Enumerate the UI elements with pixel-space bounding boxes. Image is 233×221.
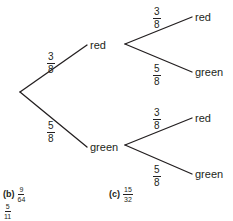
prob-denominator: 8 [154, 76, 160, 87]
prob-numerator: 5 [153, 64, 161, 76]
answer-b: (b) 9 64 [3, 186, 25, 203]
prob-l1-green: 5 8 [47, 121, 55, 144]
prob-numerator: 3 [47, 52, 55, 64]
outcome-label-l1-green: green [90, 141, 118, 153]
prob-l2-red-green: 5 8 [153, 64, 161, 87]
prob-denominator: 8 [154, 120, 160, 131]
prob-l2-green-red: 3 8 [153, 108, 161, 131]
answer-b-fraction: 9 64 [18, 186, 26, 203]
answer-c: (c) 15 32 [109, 186, 133, 203]
prob-numerator: 5 [47, 121, 55, 133]
prob-numerator: 3 [153, 7, 161, 19]
prob-l1-red: 3 8 [47, 52, 55, 75]
prob-l2-red-red: 3 8 [153, 7, 161, 30]
answer-extra: 5 11 [4, 203, 11, 220]
prob-denominator: 8 [154, 19, 160, 30]
answer-b-numerator: 9 [18, 186, 24, 195]
outcome-label-l2-red-red: red [195, 11, 211, 23]
prob-numerator: 5 [153, 165, 161, 177]
answer-extra-fraction: 5 11 [4, 203, 11, 220]
answer-c-denominator: 32 [124, 195, 132, 203]
prob-l2-green-green: 5 8 [153, 165, 161, 188]
answer-c-fraction: 15 32 [123, 186, 133, 203]
answer-extra-denominator: 11 [4, 212, 11, 220]
outcome-label-l2-green-green: green [195, 168, 223, 180]
answer-b-tag: (b) [3, 189, 15, 199]
outcome-label-l2-red-green: green [195, 66, 223, 78]
answer-c-tag: (c) [109, 189, 120, 199]
prob-denominator: 8 [48, 133, 54, 144]
answer-b-denominator: 64 [18, 195, 26, 203]
outcome-label-l2-green-red: red [195, 112, 211, 124]
answer-c-numerator: 15 [123, 186, 133, 195]
answer-extra-numerator: 5 [5, 203, 11, 212]
prob-numerator: 3 [153, 108, 161, 120]
prob-denominator: 8 [154, 177, 160, 188]
outcome-label-l1-red: red [90, 39, 106, 51]
prob-denominator: 8 [48, 64, 54, 75]
